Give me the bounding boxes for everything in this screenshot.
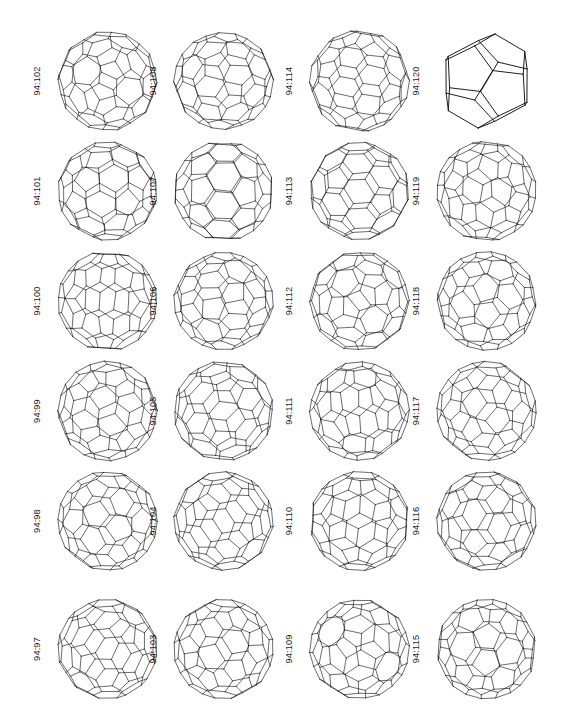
fullerene-wireframe [297,462,422,580]
isomer-label: 94:110 [282,462,296,580]
fullerene-wireframe [424,352,549,470]
fullerene-wireframe [161,132,286,250]
isomer-cell: 94:117 [409,352,549,470]
isomer-label: 94:97 [30,590,44,708]
fullerene-wireframe [424,22,549,140]
isomer-label: 94:111 [282,352,296,470]
isomer-label: 94:106 [146,242,160,360]
isomer-cell: 94:104 [146,462,286,580]
isomer-cell: 94:110 [282,462,422,580]
fullerene-wireframe [297,590,422,708]
fullerene-wireframe [424,462,549,580]
fullerene-wireframe [297,22,422,140]
fullerene-wireframe [297,352,422,470]
isomer-label: 94:104 [146,462,160,580]
isomer-cell: 94:103 [146,590,286,708]
isomer-cell: 94:119 [409,132,549,250]
fullerene-wireframe [424,590,549,708]
isomer-label: 94:116 [409,462,423,580]
isomer-label: 94:119 [409,132,423,250]
isomer-label: 94:102 [30,22,44,140]
isomer-cell: 94:105 [146,352,286,470]
isomer-label: 94:114 [282,22,296,140]
fullerene-wireframe [161,462,286,580]
isomer-cell: 94:118 [409,242,549,360]
isomer-cell: 94:109 [282,590,422,708]
isomer-label: 94:103 [146,590,160,708]
fullerene-wireframe [424,242,549,360]
isomer-cell: 94:107 [146,132,286,250]
isomer-cell: 94:112 [282,242,422,360]
isomer-cell: 94:115 [409,590,549,708]
isomer-cell: 94:116 [409,462,549,580]
isomer-label: 94:115 [409,590,423,708]
isomer-label: 94:109 [282,590,296,708]
isomer-label: 94:117 [409,352,423,470]
fullerene-wireframe [297,132,422,250]
isomer-label: 94:105 [146,352,160,470]
isomer-label: 94:118 [409,242,423,360]
isomer-label: 94:113 [282,132,296,250]
isomer-label: 94:101 [30,132,44,250]
fullerene-isomer-plate: 94:10294:10894:11494:12094:10194:10794:1… [0,0,561,715]
fullerene-wireframe [297,242,422,360]
isomer-cell: 94:114 [282,22,422,140]
isomer-label: 94:120 [409,22,423,140]
fullerene-wireframe [161,22,286,140]
isomer-label: 94:98 [30,462,44,580]
isomer-cell: 94:106 [146,242,286,360]
isomer-cell: 94:120 [409,22,549,140]
isomer-label: 94:100 [30,242,44,360]
fullerene-wireframe [161,590,286,708]
isomer-cell: 94:113 [282,132,422,250]
isomer-label: 94:112 [282,242,296,360]
isomer-label: 94:99 [30,352,44,470]
isomer-cell: 94:108 [146,22,286,140]
fullerene-wireframe [424,132,549,250]
isomer-cell: 94:111 [282,352,422,470]
fullerene-wireframe [161,242,286,360]
isomer-label: 94:108 [146,22,160,140]
fullerene-wireframe [161,352,286,470]
isomer-label: 94:107 [146,132,160,250]
